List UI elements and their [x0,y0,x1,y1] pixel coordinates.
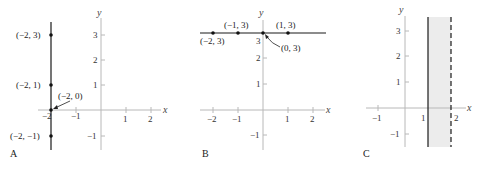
figure: −2 −1 1 2 3 2 1 −1 x y (−2, 3) (−2, 1) (… [0,0,484,172]
panel-c: −1 1 2 3 2 1 −1 x y C [363,4,472,159]
shaded-region [428,17,451,147]
x-tick-label: 2 [148,114,153,124]
y-ticks [101,35,105,136]
y-ticks [405,31,409,134]
point-marker [211,31,215,35]
point-label: (−2, 3) [16,30,41,40]
x-tick-label: 2 [454,113,459,123]
arrowhead-icon [53,105,58,109]
panel-a: −2 −1 1 2 3 2 1 −1 x y (−2, 3) (−2, 1) (… [10,7,168,159]
y-axis-label: y [96,7,102,18]
point-label: (−2, −1) [10,131,40,141]
x-axis-label: x [162,104,168,115]
y-tick-label: 3 [256,36,261,46]
y-tick-label: 2 [396,51,401,61]
point-label: (−2, 3) [200,36,225,46]
y-tick-label: −1 [87,131,97,141]
point-label: (−1, 3) [224,20,249,30]
point-marker [49,108,53,112]
point-label: (1, 3) [276,20,296,30]
y-axis-label: y [398,4,404,15]
y-tick-label: 1 [256,79,261,89]
y-tick-label: −1 [250,130,260,140]
x-tick-label: −2 [207,114,217,124]
panel-label: A [10,148,18,159]
point-label: (−2, 0) [58,91,83,101]
y-tick-label: 3 [396,26,401,36]
y-ticks [263,58,267,135]
x-tick-label: −1 [232,114,242,124]
x-tick-label: −2 [42,111,52,121]
pointer-arrow [266,36,280,47]
point-marker [286,31,290,35]
y-tick-label: 1 [396,77,401,87]
y-tick-label: 2 [256,53,261,63]
x-axis-label: x [466,102,472,113]
point-marker [236,31,240,35]
point-marker [49,83,53,87]
x-tick-label: 1 [421,113,426,123]
point-marker [49,134,53,138]
y-tick-label: 1 [93,80,98,90]
x-axis-label: x [325,104,331,115]
y-tick-label: 2 [93,55,98,65]
y-tick-label: −1 [390,129,400,139]
y-axis-label: y [258,7,264,18]
y-tick-label: 3 [93,30,98,40]
panel-b: −2 −1 1 2 3 2 1 −1 y (−2, 3) (−1, 3) (0,… [200,7,326,159]
x-tick-label: 2 [310,114,315,124]
x-tick-label: −1 [71,111,81,121]
x-tick-label: −1 [372,113,382,123]
x-tick-label: 1 [123,114,128,124]
arrowhead-icon [265,34,269,39]
panel-label: C [363,148,370,159]
x-tick-label: 1 [285,114,290,124]
point-marker [49,33,53,37]
point-marker [261,31,265,35]
point-label: (−2, 1) [16,80,41,90]
point-label: (0, 3) [281,43,301,53]
panel-label: B [202,148,209,159]
